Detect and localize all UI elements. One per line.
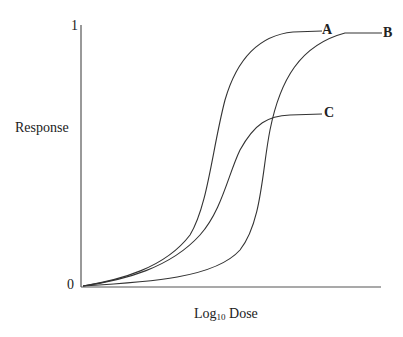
y-axis-label: Response: [15, 121, 69, 135]
x-axis-label-main: Log: [194, 306, 217, 321]
curve-c: [83, 114, 322, 286]
curve-a-label: A: [322, 23, 332, 37]
y-tick-1: 1: [71, 19, 78, 33]
curve-b: [83, 33, 382, 286]
y-tick-0: 0: [67, 278, 74, 292]
dose-response-plot: [0, 0, 403, 337]
x-axis-label: Log10 Dose: [194, 307, 258, 322]
x-axis-label-rest: Dose: [226, 306, 258, 321]
curve-b-label: B: [383, 26, 392, 40]
curve-c-label: C: [324, 106, 334, 120]
curve-a: [83, 31, 322, 286]
x-axis-label-sub: 10: [217, 312, 226, 322]
